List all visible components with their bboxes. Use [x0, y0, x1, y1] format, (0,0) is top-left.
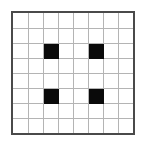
grid-cell-empty[interactable] — [43, 28, 58, 43]
grid-cell-empty[interactable] — [13, 88, 28, 103]
grid-cell-empty[interactable] — [58, 103, 73, 118]
grid-cell-empty[interactable] — [118, 28, 133, 43]
grid-cell-empty[interactable] — [103, 43, 118, 58]
grid-cell-empty[interactable] — [103, 28, 118, 43]
grid-cell-empty[interactable] — [28, 73, 43, 88]
grid-row — [13, 103, 133, 118]
grid-cell-empty[interactable] — [58, 118, 73, 133]
grid-cell-empty[interactable] — [88, 73, 103, 88]
grid-cell-empty[interactable] — [28, 13, 43, 28]
grid-cell-empty[interactable] — [103, 13, 118, 28]
grid-cell-empty[interactable] — [28, 28, 43, 43]
grid-pattern-figure — [0, 0, 143, 143]
grid-cell-empty[interactable] — [103, 118, 118, 133]
grid-cell-empty[interactable] — [73, 118, 88, 133]
grid-cell-empty[interactable] — [43, 58, 58, 73]
grid-cell-empty[interactable] — [73, 43, 88, 58]
grid-cell-filled[interactable] — [43, 88, 58, 103]
grid-cell-empty[interactable] — [13, 43, 28, 58]
grid-cell-empty[interactable] — [28, 103, 43, 118]
grid-cell-filled[interactable] — [88, 88, 103, 103]
grid-cell-empty[interactable] — [88, 28, 103, 43]
grid-cell-empty[interactable] — [13, 58, 28, 73]
grid-cell-empty[interactable] — [28, 43, 43, 58]
grid-cell-empty[interactable] — [13, 13, 28, 28]
grid-cell-empty[interactable] — [73, 88, 88, 103]
grid-cell-empty[interactable] — [118, 43, 133, 58]
grid-cell-empty[interactable] — [103, 88, 118, 103]
grid-cell-empty[interactable] — [103, 103, 118, 118]
grid-cell-empty[interactable] — [58, 43, 73, 58]
grid-cell-empty[interactable] — [118, 73, 133, 88]
grid-cell-empty[interactable] — [73, 73, 88, 88]
grid-cell-empty[interactable] — [13, 73, 28, 88]
grid-cell-empty[interactable] — [28, 58, 43, 73]
grid-cell-empty[interactable] — [88, 103, 103, 118]
grid-cell-empty[interactable] — [58, 13, 73, 28]
grid-cell-empty[interactable] — [28, 118, 43, 133]
grid-cell-empty[interactable] — [13, 103, 28, 118]
grid-row — [13, 118, 133, 133]
grid-cell-empty[interactable] — [58, 88, 73, 103]
grid-cell-empty[interactable] — [118, 88, 133, 103]
grid-cell-empty[interactable] — [43, 13, 58, 28]
grid-row — [13, 73, 133, 88]
grid-cell-empty[interactable] — [118, 103, 133, 118]
grid-table — [13, 13, 133, 133]
grid-cell-empty[interactable] — [58, 28, 73, 43]
grid-row — [13, 13, 133, 28]
grid-cell-empty[interactable] — [43, 103, 58, 118]
grid-cell-empty[interactable] — [88, 118, 103, 133]
grid-cell-empty[interactable] — [13, 28, 28, 43]
grid-cell-empty[interactable] — [73, 13, 88, 28]
grid-cell-empty[interactable] — [103, 58, 118, 73]
grid-cell-empty[interactable] — [73, 58, 88, 73]
grid-cell-empty[interactable] — [73, 103, 88, 118]
grid-cell-empty[interactable] — [43, 73, 58, 88]
grid-cell-empty[interactable] — [58, 73, 73, 88]
grid-cell-empty[interactable] — [88, 13, 103, 28]
grid-cell-empty[interactable] — [88, 58, 103, 73]
grid-row — [13, 28, 133, 43]
grid-body — [13, 13, 133, 133]
grid-outer-border — [11, 11, 135, 135]
grid-row — [13, 58, 133, 73]
grid-cell-filled[interactable] — [43, 43, 58, 58]
grid-cell-empty[interactable] — [118, 118, 133, 133]
grid-row — [13, 43, 133, 58]
grid-cell-empty[interactable] — [58, 58, 73, 73]
grid-cell-empty[interactable] — [118, 58, 133, 73]
grid-row — [13, 88, 133, 103]
grid-cell-empty[interactable] — [103, 73, 118, 88]
grid-cell-empty[interactable] — [43, 118, 58, 133]
grid-cell-empty[interactable] — [73, 28, 88, 43]
grid-cell-empty[interactable] — [28, 88, 43, 103]
grid-cell-filled[interactable] — [88, 43, 103, 58]
grid-cell-empty[interactable] — [13, 118, 28, 133]
grid-cell-empty[interactable] — [118, 13, 133, 28]
